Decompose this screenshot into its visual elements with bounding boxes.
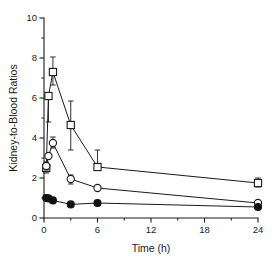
marker-open-square	[254, 179, 261, 186]
marker-filled-circle	[94, 200, 101, 207]
marker-open-square	[67, 121, 74, 128]
chart-plot-area: 0246810 06121824 Time (h) Kidney-to-Bloo…	[0, 0, 275, 268]
data-series-group	[43, 57, 262, 211]
marker-open-square	[45, 92, 52, 99]
y-axis-title: Kidney-to-Blood Ratios	[7, 64, 19, 171]
marker-open-circle	[49, 139, 56, 146]
chart-figure: 0246810 06121824 Time (h) Kidney-to-Bloo…	[0, 0, 275, 268]
open-square-series-line	[46, 72, 258, 183]
marker-filled-circle	[67, 201, 74, 208]
y-tick-label: 0	[32, 212, 37, 223]
marker-open-square	[94, 163, 101, 170]
y-tick-label: 6	[32, 92, 37, 103]
open-circle-series	[43, 137, 262, 207]
marker-open-circle	[45, 152, 52, 159]
marker-open-square	[49, 68, 56, 75]
marker-filled-circle	[255, 204, 262, 211]
y-tick-label: 2	[32, 172, 37, 183]
x-axis-title: Time (h)	[132, 242, 171, 254]
marker-open-circle	[43, 162, 50, 169]
x-axis: 06121824	[41, 218, 263, 235]
open-circle-series-line	[46, 143, 258, 203]
x-tick-label: 0	[41, 224, 46, 235]
y-tick-label: 4	[32, 132, 37, 143]
x-tick-label: 18	[199, 224, 210, 235]
x-tick-label: 12	[146, 224, 157, 235]
marker-open-circle	[67, 175, 74, 182]
filled-circle-series	[43, 195, 262, 211]
x-tick-label: 6	[95, 224, 100, 235]
marker-open-circle	[94, 184, 101, 191]
filled-circle-series-line	[46, 198, 258, 207]
open-square-series	[43, 57, 262, 187]
y-tick-label: 8	[32, 52, 37, 63]
marker-filled-circle	[49, 197, 56, 204]
y-axis: 0246810	[26, 12, 44, 223]
y-tick-label: 10	[26, 12, 37, 23]
x-tick-label: 24	[253, 224, 264, 235]
